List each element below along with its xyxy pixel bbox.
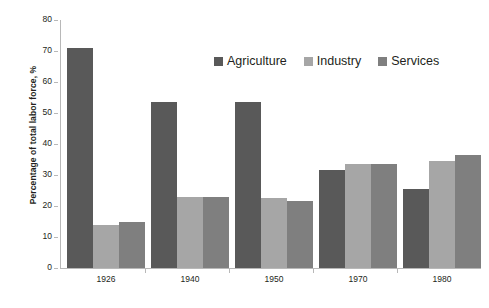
y-axis-tick-mark	[54, 144, 58, 145]
y-axis-tick-label: 40	[43, 138, 52, 148]
y-axis-tick-mark	[54, 268, 58, 269]
legend-item-industry[interactable]: Industry	[304, 54, 361, 68]
y-axis-tick-mark	[54, 20, 58, 21]
bar-services-1950[interactable]	[287, 201, 313, 268]
y-axis-tick-label: 80	[43, 14, 52, 24]
legend-label: Agriculture	[227, 54, 287, 68]
y-axis-tick-mark	[54, 175, 58, 176]
y-axis-tick-label: 0	[47, 262, 52, 272]
legend-item-services[interactable]: Services	[378, 54, 439, 68]
y-axis-tick-mark	[54, 237, 58, 238]
y-axis-tick-mark	[54, 113, 58, 114]
bar-agriculture-1980[interactable]	[403, 189, 429, 268]
x-axis-line	[60, 268, 481, 269]
y-axis-tick-label: 60	[43, 76, 52, 86]
bar-services-1980[interactable]	[455, 155, 481, 268]
x-axis-label-1926: 1926	[67, 274, 145, 284]
x-axis-label-1980: 1980	[403, 274, 481, 284]
bar-services-1926[interactable]	[119, 222, 145, 269]
y-axis-tick-mark	[54, 82, 58, 83]
legend-label: Industry	[317, 54, 361, 68]
y-axis-title: Percentage of total labor force, %	[28, 10, 38, 260]
y-axis-tick-label: 50	[43, 107, 52, 117]
bar-group	[67, 20, 145, 268]
legend-label: Services	[391, 54, 439, 68]
y-axis-tick-label: 30	[43, 169, 52, 179]
x-axis-separator	[145, 269, 146, 273]
x-axis-separator	[313, 269, 314, 273]
y-axis-tick-mark	[54, 51, 58, 52]
y-axis-tick-label: 20	[43, 200, 52, 210]
bar-industry-1926[interactable]	[93, 225, 119, 268]
bar-agriculture-1950[interactable]	[235, 102, 261, 268]
bar-industry-1940[interactable]	[177, 197, 203, 268]
bar-services-1970[interactable]	[371, 164, 397, 268]
bar-chart: Percentage of total labor force, % 80706…	[0, 0, 489, 308]
legend-swatch-icon	[304, 57, 313, 66]
bar-industry-1970[interactable]	[345, 164, 371, 268]
legend-swatch-icon	[378, 57, 387, 66]
legend-swatch-icon	[214, 57, 223, 66]
y-axis-tick-label: 70	[43, 45, 52, 55]
y-axis-tick-mark	[54, 206, 58, 207]
x-axis-label-1950: 1950	[235, 274, 313, 284]
bar-industry-1950[interactable]	[261, 198, 287, 268]
bar-agriculture-1926[interactable]	[67, 48, 93, 268]
x-axis-separator	[397, 269, 398, 273]
x-axis-label-1970: 1970	[319, 274, 397, 284]
x-axis-label-1940: 1940	[151, 274, 229, 284]
y-axis-tick-label: 10	[43, 231, 52, 241]
bar-agriculture-1970[interactable]	[319, 170, 345, 268]
bar-agriculture-1940[interactable]	[151, 102, 177, 268]
legend-item-agriculture[interactable]: Agriculture	[214, 54, 287, 68]
bar-industry-1980[interactable]	[429, 161, 455, 268]
chart-legend: AgricultureIndustryServices	[214, 54, 439, 68]
x-axis-separator	[229, 269, 230, 273]
bar-services-1940[interactable]	[203, 197, 229, 268]
